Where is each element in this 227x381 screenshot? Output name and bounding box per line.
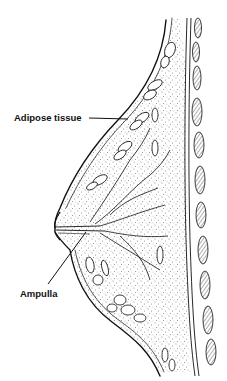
breast-anatomy-diagram [0,0,227,381]
pectoral-muscle [192,18,216,365]
label-adipose-tissue: Adipose tissue [14,113,82,123]
label-ampulla: Ampulla [20,289,57,299]
breast-tissue [56,18,190,372]
